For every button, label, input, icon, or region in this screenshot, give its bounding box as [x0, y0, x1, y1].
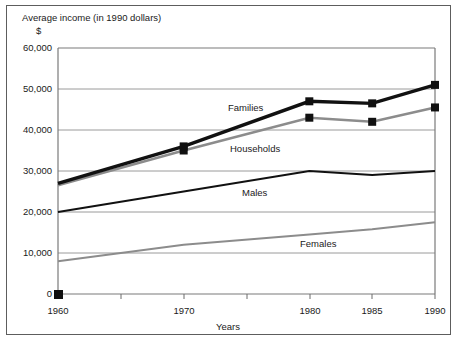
series-markers-households	[180, 103, 439, 154]
y-tick-label-60000: 60,000	[23, 42, 52, 53]
y-tick-label-50000: 50,000	[23, 83, 52, 94]
chart-figure: Average income (in 1990 dollars) $ 60,00…	[0, 0, 457, 341]
y-tick-label-0: 0	[47, 288, 52, 299]
series-families-group	[58, 81, 439, 183]
series-line-females	[58, 222, 435, 261]
data-point-marker	[431, 103, 439, 111]
chart-title: Average income (in 1990 dollars)	[22, 12, 161, 23]
y-tick-label-40000: 40,000	[23, 124, 52, 135]
y-tick-label-30000: 30,000	[23, 165, 52, 176]
y-tick-label-20000: 20,000	[23, 206, 52, 217]
series-label-males: Males	[242, 187, 268, 198]
data-point-marker	[431, 81, 439, 89]
series-label-households: Households	[230, 143, 280, 154]
x-tick-label-1960: 1960	[47, 305, 68, 316]
y-unit-symbol: $	[36, 25, 42, 36]
x-axis-tick-labels: 1960 1970 1980 1985 1990	[47, 305, 445, 316]
origin-marker	[54, 290, 63, 299]
x-tick-label-1985: 1985	[361, 305, 382, 316]
x-tick-label-1970: 1970	[173, 305, 194, 316]
series-label-females: Females	[300, 238, 337, 249]
data-point-marker	[368, 118, 376, 126]
y-tick-label-10000: 10,000	[23, 247, 52, 258]
series-females-group	[58, 222, 435, 261]
line-chart-canvas: Average income (in 1990 dollars) $ 60,00…	[0, 0, 457, 341]
data-point-marker	[305, 97, 313, 105]
x-axis-ticks	[58, 294, 435, 299]
data-point-marker	[305, 114, 313, 122]
series-label-families: Families	[228, 102, 264, 113]
y-axis-tick-labels: 60,000 50,000 40,000 30,000 20,000 10,00…	[23, 42, 52, 299]
x-axis-title: Years	[216, 321, 240, 332]
data-point-marker	[368, 99, 376, 107]
x-tick-label-1990: 1990	[424, 305, 445, 316]
data-point-marker	[180, 142, 188, 150]
x-tick-label-1980: 1980	[299, 305, 320, 316]
